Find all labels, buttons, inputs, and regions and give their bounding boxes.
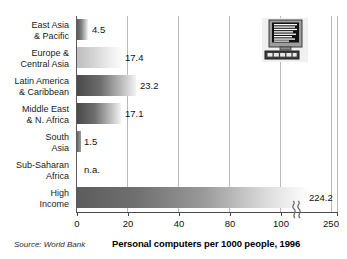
category-label-line1: East Asia xyxy=(0,20,69,31)
category-label-sub-saharan-africa: Sub-Saharan Africa xyxy=(0,156,72,184)
category-label-line1: Latin America xyxy=(0,76,69,87)
x-tick-40 xyxy=(179,212,180,216)
category-label-latin-america-caribbean: Latin America & Caribbean xyxy=(0,72,72,100)
bar-europe-central-asia xyxy=(77,47,121,68)
category-label-line1: South xyxy=(0,132,69,143)
bar-south-asia xyxy=(77,131,81,152)
x-tick-label-0: 0 xyxy=(74,218,79,229)
bar-middle-east-n-africa xyxy=(77,103,121,124)
category-label-line1: Sub-Saharan xyxy=(0,160,69,171)
category-label-line2: Income xyxy=(0,199,69,210)
bar-row-sub-saharan-africa: n.a. xyxy=(76,156,338,184)
category-label-line1: Europe & xyxy=(0,48,69,59)
bar-value-sub-saharan-africa: n.a. xyxy=(84,164,100,176)
category-label-line2: Africa xyxy=(0,171,69,182)
bar-value-latin-america-caribbean: 23.2 xyxy=(140,80,159,92)
x-tick-20 xyxy=(128,212,129,216)
category-label-line1: Middle East xyxy=(0,104,69,115)
x-tick-250 xyxy=(337,212,338,216)
bar-row-middle-east-n-africa: 17.1 xyxy=(76,100,338,128)
bar-chart: East Asia & Pacific Europe & Central Asi… xyxy=(0,0,347,259)
category-label-high-income: High Income xyxy=(0,184,72,212)
category-label-line2: & Caribbean xyxy=(0,87,69,98)
bar-value-europe-central-asia: 17.4 xyxy=(125,52,144,64)
source-note: Source: World Bank xyxy=(14,240,85,249)
bar-value-east-asia-pacific: 4.5 xyxy=(92,24,105,36)
x-tick-label-250: 250 xyxy=(323,218,339,229)
x-tick-label-40: 40 xyxy=(174,218,185,229)
bar-east-asia-pacific xyxy=(77,19,88,40)
category-label-east-asia-pacific: East Asia & Pacific xyxy=(0,16,72,44)
category-labels: East Asia & Pacific Europe & Central Asi… xyxy=(0,16,72,212)
x-tick-label-80: 80 xyxy=(225,218,236,229)
x-tick-80 xyxy=(230,212,231,216)
axis-break-icon xyxy=(288,199,306,219)
x-tick-label-20: 20 xyxy=(123,218,134,229)
bar-value-high-income: 224.2 xyxy=(309,192,333,204)
category-label-line2: Central Asia xyxy=(0,59,69,70)
bar-row-latin-america-caribbean: 23.2 xyxy=(76,72,338,100)
x-tick-label-100: 100 xyxy=(273,218,289,229)
category-label-line1: High xyxy=(0,188,69,199)
category-label-europe-central-asia: Europe & Central Asia xyxy=(0,44,72,72)
chart-title: Personal computers per 1000 people, 1996 xyxy=(112,238,300,249)
bar-high-income xyxy=(77,187,309,208)
bar-value-middle-east-n-africa: 17.1 xyxy=(125,108,144,120)
bar-latin-america-caribbean xyxy=(77,75,136,96)
bar-value-south-asia: 1.5 xyxy=(84,136,97,148)
computer-monitor-icon xyxy=(262,18,308,62)
bar-row-south-asia: 1.5 xyxy=(76,128,338,156)
category-label-line2: & N. Africa xyxy=(0,115,69,126)
x-tick-100 xyxy=(281,212,282,216)
category-label-middle-east-n-africa: Middle East & N. Africa xyxy=(0,100,72,128)
category-label-line2: Asia xyxy=(0,143,69,154)
category-label-south-asia: South Asia xyxy=(0,128,72,156)
x-tick-0 xyxy=(77,212,78,216)
category-label-line2: & Pacific xyxy=(0,31,69,42)
